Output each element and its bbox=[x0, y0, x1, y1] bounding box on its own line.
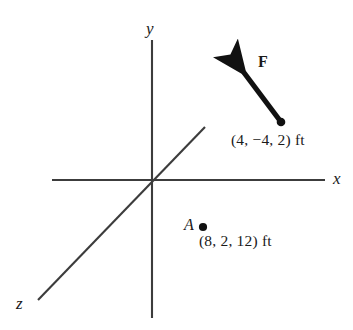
diagram-canvas: y x z F (4, −4, 2) ft A (8, 2, 12) ft bbox=[0, 0, 353, 330]
point-a-label: A bbox=[184, 217, 194, 233]
x-axis-label: x bbox=[333, 170, 341, 187]
force-vector-arrow bbox=[244, 72, 282, 122]
point-a-coordinates-label: (8, 2, 12) ft bbox=[199, 233, 272, 249]
point-a-dot bbox=[199, 223, 207, 231]
axes-and-vector-graphic bbox=[0, 0, 353, 330]
force-application-dot bbox=[277, 118, 286, 127]
force-application-coordinates-label: (4, −4, 2) ft bbox=[231, 132, 305, 148]
y-axis-label: y bbox=[146, 20, 154, 37]
force-vector-label: F bbox=[258, 54, 268, 70]
z-axis-label: z bbox=[16, 295, 23, 312]
z-axis-line bbox=[38, 127, 205, 300]
